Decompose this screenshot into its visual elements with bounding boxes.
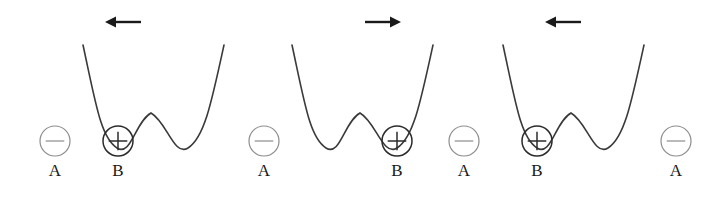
label-a-3: A xyxy=(452,162,476,179)
label-b-2: B xyxy=(385,162,409,179)
label-a-2: A xyxy=(252,162,276,179)
diagram-label-layer: ABABABA xyxy=(0,0,720,199)
label-a-1: A xyxy=(43,162,67,179)
label-b-1: B xyxy=(106,162,130,179)
double-well-potential-diagram: ABABABA xyxy=(0,0,720,199)
label-a-4: A xyxy=(664,162,688,179)
label-b-3: B xyxy=(525,162,549,179)
